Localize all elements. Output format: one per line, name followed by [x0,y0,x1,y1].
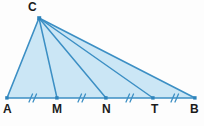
point-dot-A [5,96,8,99]
vertex-label-N: N [102,103,111,115]
vertex-label-C: C [28,1,37,13]
vertex-label-T: T [151,103,158,115]
point-dot-T [151,96,154,99]
geometry-figure: A M N T B C [0,0,204,126]
point-dot-C [37,16,41,20]
point-dot-B [193,96,196,99]
vertex-label-A: A [3,103,12,115]
triangle-fill-region [7,18,195,98]
point-dot-N [104,96,107,99]
point-dot-M [55,96,58,99]
vertex-label-M: M [52,103,62,115]
vertex-label-B: B [190,103,199,115]
